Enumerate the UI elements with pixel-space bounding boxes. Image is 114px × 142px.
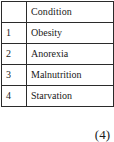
table-row: 1 Obesity: [2, 23, 114, 44]
row-index-1: 1: [2, 23, 27, 44]
row-index-3: 3: [2, 65, 27, 86]
column-header-condition: Condition: [27, 2, 114, 23]
row-index-4: 4: [2, 86, 27, 107]
row-index-2: 2: [2, 44, 27, 65]
row-condition-1: Obesity: [27, 23, 114, 44]
table-row: 2 Anorexia: [2, 44, 114, 65]
figure-root: Condition 1 Obesity 2 Anorexia 3 Malnutr…: [0, 0, 114, 142]
table-row: 4 Starvation: [2, 86, 114, 107]
column-header-index: [2, 2, 27, 23]
table-header-row: Condition: [2, 2, 114, 23]
row-condition-4: Starvation: [27, 86, 114, 107]
row-condition-3: Malnutrition: [27, 65, 114, 86]
table-row: 3 Malnutrition: [2, 65, 114, 86]
row-condition-2: Anorexia: [27, 44, 114, 65]
figure-caption: (4): [95, 128, 110, 141]
condition-table: Condition 1 Obesity 2 Anorexia 3 Malnutr…: [1, 1, 114, 107]
